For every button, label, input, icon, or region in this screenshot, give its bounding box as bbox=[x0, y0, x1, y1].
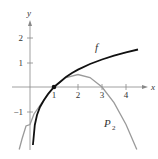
x-axis-arrow-icon bbox=[142, 85, 148, 89]
y-tick-1: 1 bbox=[19, 58, 24, 68]
y-tick-minus-1: −1 bbox=[13, 107, 23, 117]
f-label: f bbox=[95, 41, 100, 53]
x-tick-3: 3 bbox=[100, 90, 105, 100]
y-axis-label: y bbox=[26, 8, 31, 18]
x-tick-4: 4 bbox=[124, 90, 129, 100]
f-curve bbox=[33, 50, 138, 146]
x-axis-label: x bbox=[150, 82, 155, 92]
y-tick-2: 2 bbox=[19, 33, 24, 43]
x-tick-1: 1 bbox=[52, 90, 57, 100]
tangent-point bbox=[52, 85, 57, 90]
p2-label: P bbox=[103, 117, 111, 129]
chart: 1 2 3 4 2 1 −1 y x f P 2 bbox=[0, 0, 158, 159]
x-tick-2: 2 bbox=[76, 90, 81, 100]
y-axis-arrow-icon bbox=[28, 20, 32, 26]
p2-label-subscript: 2 bbox=[112, 124, 116, 132]
